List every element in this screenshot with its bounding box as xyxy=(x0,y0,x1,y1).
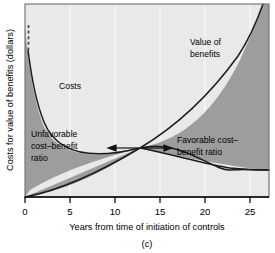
unfavorable-region-label-line1: Unfavorable xyxy=(31,129,78,139)
x-tick-label-20: 20 xyxy=(200,206,211,217)
unfavorable-region-label-line2: cost–benefit xyxy=(31,141,78,151)
figure-caption: (c) xyxy=(142,238,153,249)
x-tick-label-0: 0 xyxy=(22,206,27,217)
x-axis-title: Years from time of initiation of control… xyxy=(69,222,225,232)
x-tick-label-25: 25 xyxy=(245,206,256,217)
x-axis-ticks xyxy=(25,197,250,203)
x-tick-label-15: 15 xyxy=(155,206,166,217)
y-axis-title: Costs for value of benefits (dollars) xyxy=(5,29,15,171)
value-of-benefits-label-line2: benefits xyxy=(190,49,220,59)
figure-container: 0 5 10 15 20 25 Years from time of initi… xyxy=(0,0,275,253)
x-tick-label-5: 5 xyxy=(67,206,72,217)
cost-benefit-chart: 0 5 10 15 20 25 Years from time of initi… xyxy=(0,0,275,253)
costs-curve-label: Costs xyxy=(59,81,81,91)
x-tick-label-10: 10 xyxy=(110,206,121,217)
favorable-region-label-line1: Favorable cost– xyxy=(177,135,238,145)
value-of-benefits-label-line1: Value of xyxy=(190,37,222,47)
favorable-region-label-line2: benefit ratio xyxy=(177,147,222,157)
unfavorable-region-label-line3: ratio xyxy=(31,153,48,163)
